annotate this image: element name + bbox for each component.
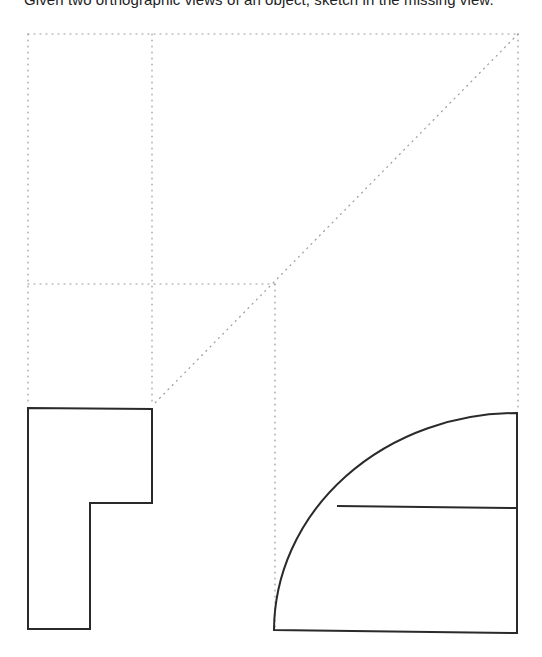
l-shape-outline — [28, 408, 152, 629]
missing-view-area[interactable] — [28, 34, 152, 284]
front-view — [28, 408, 152, 629]
side-view — [274, 413, 517, 633]
quarter-round-outline — [274, 413, 517, 633]
grid-miter-diagonal — [152, 34, 518, 406]
missing-view-region[interactable] — [28, 34, 152, 284]
orthographic-drawing — [0, 0, 542, 657]
side-view-interior-line — [337, 506, 517, 508]
